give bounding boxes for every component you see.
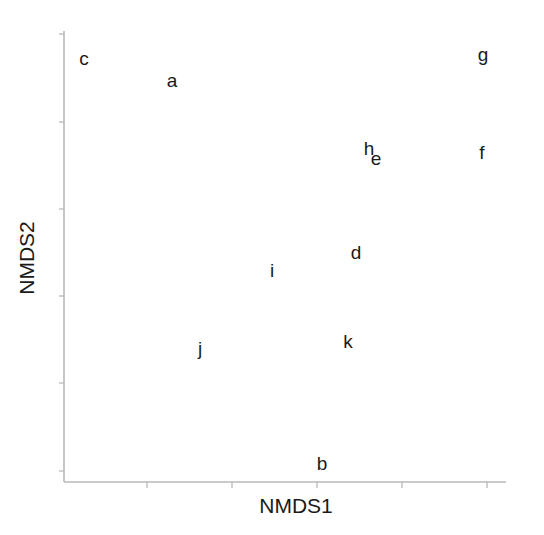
point-label-f: f (479, 142, 485, 163)
nmds-plot: NMDS1 NMDS2 caghefdijkb (0, 0, 544, 535)
point-label-k: k (343, 331, 353, 352)
point-label-d: d (351, 242, 362, 263)
point-label-g: g (478, 44, 489, 65)
point-label-i: i (270, 260, 274, 281)
point-label-c: c (79, 48, 89, 69)
x-axis (64, 482, 506, 488)
point-label-e: e (371, 148, 382, 169)
y-axis-title: NMDS2 (15, 221, 38, 295)
point-label-j: j (197, 338, 202, 359)
point-label-b: b (317, 453, 328, 474)
x-axis-title: NMDS1 (259, 494, 333, 517)
point-label-a: a (167, 70, 178, 91)
x-axis-ticks (147, 482, 487, 488)
y-axis (59, 31, 64, 482)
point-labels: caghefdijkb (79, 44, 488, 474)
